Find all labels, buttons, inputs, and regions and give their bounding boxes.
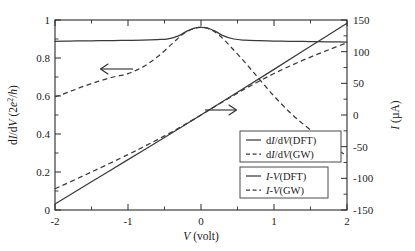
figure-container: -2-1012 00.20.40.60.81 -150-100-50050100…	[0, 0, 415, 251]
legend-label-iv-dft: I-V(DFT)	[265, 171, 307, 183]
y-right-tick-label: -100	[353, 172, 374, 184]
chart-svg: -2-1012 00.20.40.60.81 -150-100-50050100…	[0, 0, 415, 251]
x-tick-label: 1	[271, 215, 277, 227]
y-left-tick-label: 0.8	[36, 52, 50, 64]
x-tick-label: 2	[344, 215, 350, 227]
y-axis-right-label: I (µA)	[389, 100, 402, 130]
y-right-tick-label: 0	[353, 109, 359, 121]
y-right-tick-label: 150	[353, 14, 370, 26]
y-left-tick-label: 0.2	[36, 166, 50, 178]
x-tick-label: -2	[50, 215, 59, 227]
legend-label-didv-gw: dI/dV(GW)	[266, 149, 314, 161]
y-right-tick-label: -50	[353, 141, 368, 153]
y-left-tick-label: 0.4	[36, 128, 50, 140]
legend-iv[interactable]: I-V(DFT) I-V(GW)	[240, 167, 328, 198]
y-right-tick-label: -150	[353, 204, 374, 216]
legend-didv[interactable]: dI/dV(DFT) dI/dV(GW)	[240, 131, 341, 162]
x-tick-label: -1	[123, 215, 132, 227]
y-right-tick-label: 100	[353, 46, 370, 58]
y-left-tick-label: 1	[45, 14, 51, 26]
x-axis-label: V (volt)	[183, 230, 219, 243]
y-axis-left-label: dI/dV (2e2/h)	[6, 85, 21, 145]
y-left-tick-label: 0	[45, 204, 51, 216]
legend-label-didv-dft: dI/dV(DFT)	[266, 135, 317, 147]
x-axis-label-unit: (volt)	[190, 230, 219, 243]
legend-label-iv-gw: I-V(GW)	[265, 185, 304, 197]
y-right-tick-label: 50	[353, 77, 365, 89]
y-left-tick-label: 0.6	[36, 90, 50, 102]
x-tick-label: 0	[198, 215, 204, 227]
